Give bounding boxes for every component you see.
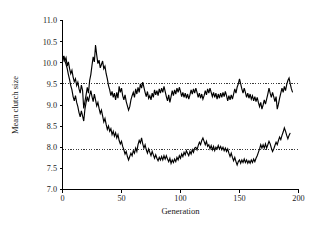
y-tick-label-7.0: 7.0 <box>47 185 57 194</box>
lower-trajectory <box>63 56 291 165</box>
y-axis-tick-labels: 7.07.58.08.59.09.510.010.511.0 <box>43 16 57 194</box>
y-tick-label-7.5: 7.5 <box>47 164 57 173</box>
y-tick-label-10.0: 10.0 <box>43 59 57 68</box>
chart-plot-svg: 7.07.58.08.59.09.510.010.511.0 050100150… <box>0 0 323 227</box>
x-tick-label-200: 200 <box>292 194 304 203</box>
y-axis-title: Mean clutch size <box>10 76 20 134</box>
y-tick-label-8.5: 8.5 <box>47 122 57 131</box>
upper-trajectory <box>63 45 293 110</box>
x-axis-tick-labels: 050100150200 <box>60 194 304 203</box>
y-tick-label-9.5: 9.5 <box>47 80 57 89</box>
x-tick-label-0: 0 <box>60 194 64 203</box>
x-tick-label-150: 150 <box>233 194 245 203</box>
y-tick-label-10.5: 10.5 <box>43 38 57 47</box>
y-tick-label-8.0: 8.0 <box>47 143 57 152</box>
y-tick-label-9.0: 9.0 <box>47 101 57 110</box>
chart-figure: 7.07.58.08.59.09.510.010.511.0 050100150… <box>0 0 323 227</box>
x-tick-label-100: 100 <box>174 194 186 203</box>
x-tick-label-50: 50 <box>117 194 125 203</box>
data-series-group <box>63 45 293 165</box>
y-tick-label-11.0: 11.0 <box>43 16 57 25</box>
x-axis-title: Generation <box>161 206 200 216</box>
